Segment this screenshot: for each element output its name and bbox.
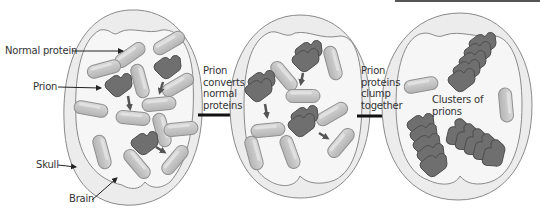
panel-1-brain <box>58 10 202 205</box>
clusters-line-1: Clusters of <box>432 94 483 106</box>
label-prion: Prion <box>33 81 57 93</box>
transition-2-line-3: clump <box>361 88 402 100</box>
label-clusters-of-prions: Clusters of prions <box>432 94 483 117</box>
transition-1-line-2: converts <box>203 77 245 89</box>
transition-1-text: Prion converts normal proteins <box>203 65 245 111</box>
panel-2-brain <box>230 15 370 198</box>
prion-diagram: Normal protein Prion Skull Brain Prion c… <box>0 0 540 219</box>
transition-2-line-2: proteins <box>361 77 402 89</box>
clusters-line-2: prions <box>432 106 483 118</box>
transition-1-line-1: Prion <box>203 65 245 77</box>
label-normal-protein: Normal protein <box>5 45 77 57</box>
transition-2-line-4: together <box>361 100 402 112</box>
transition-2-text: Prion proteins clump together <box>361 65 402 111</box>
transition-1-line-4: proteins <box>203 100 245 112</box>
label-brain: Brain <box>69 193 94 205</box>
transition-1-line-3: normal <box>203 88 245 100</box>
label-skull: Skull <box>36 159 59 171</box>
transition-2-line-1: Prion <box>361 65 402 77</box>
